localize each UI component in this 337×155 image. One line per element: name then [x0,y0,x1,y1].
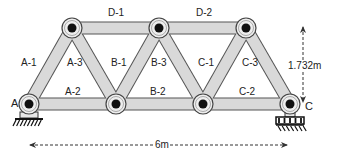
joint-c [280,94,300,114]
truss-canvas [0,0,337,155]
joint-a [19,94,39,114]
pin-icon [199,100,208,109]
member-label-d-1: D-1 [108,8,124,18]
member-label-c-3: C-3 [242,58,258,68]
pin-icon [112,100,121,109]
member-label-c-1: C-1 [198,58,214,68]
joint-b2 [193,94,213,114]
joint-b1 [106,94,126,114]
supports [13,112,306,131]
joint-t2 [149,18,169,38]
truss-diagram: A-1A-2A-3B-1B-2B-3C-1C-2C-3D-1D-2 A C 6m… [0,0,337,155]
member-label-a-1: A-1 [21,58,37,68]
pin-icon [286,100,295,109]
joint-label-c: C [305,101,313,112]
roller-support-icon [276,112,306,131]
height-dimension-label: 1.732m [288,60,321,72]
joint-t3 [236,18,256,38]
joint-label-a: A [11,98,18,109]
member-label-c-2: C-2 [239,87,255,97]
member-label-b-3: B-3 [151,58,167,68]
member-label-b-1: B-1 [111,58,127,68]
member-label-a-2: A-2 [65,87,81,97]
pin-icon [25,100,34,109]
span-dimension-label: 6m [154,140,170,150]
pin-icon [242,24,251,33]
pin-icon [68,24,77,33]
member-label-d-2: D-2 [196,8,212,18]
joint-t1 [62,18,82,38]
member-label-a-3: A-3 [67,58,83,68]
pin-icon [155,24,164,33]
member-label-b-2: B-2 [150,87,166,97]
